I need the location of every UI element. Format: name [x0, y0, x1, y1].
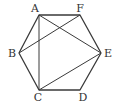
- hexagon-outline: [19, 15, 101, 90]
- vertex-label-b: B: [8, 47, 16, 60]
- vertex-label-e: E: [104, 47, 112, 60]
- hexagon-diagram: A F E D C B: [0, 0, 116, 103]
- diagonals: [19, 15, 101, 90]
- vertex-labels: A F E D C B: [8, 2, 112, 103]
- vertex-label-c: C: [34, 91, 42, 103]
- diagonal-ce: [39, 53, 101, 90]
- vertex-label-d: D: [79, 91, 88, 103]
- vertex-label-f: F: [76, 2, 84, 15]
- vertex-label-a: A: [30, 2, 40, 15]
